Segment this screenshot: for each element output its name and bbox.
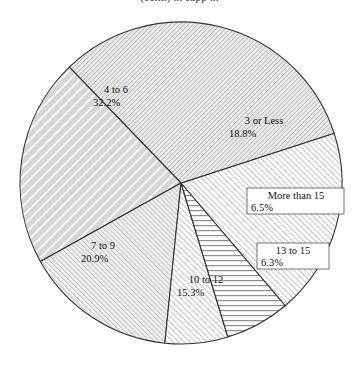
pie-label-4-to-6-name: 4 to 6 [104,84,128,95]
pie-chart-svg: 3 or Less 18.8% 4 to 6 32.2% 7 to 9 20.9… [0,0,359,369]
pie-label-13-to-15: 13 to 15 6.3% [257,243,329,269]
pie-label-more-than-15-value: 6.5% [251,202,273,213]
pie-label-more-than-15-name: More than 15 [268,190,325,201]
pie-label-13-to-15-name: 13 to 15 [276,245,310,256]
pie-label-3-or-less-value: 18.8% [229,128,256,139]
pie-label-13-to-15-value: 6.3% [261,257,283,268]
pie-label-10-to-12-value: 15.3% [177,287,204,298]
pie-chart-figure: (cont.) ... supp ... [0,0,359,369]
pie-label-7-to-9-name: 7 to 9 [91,240,115,251]
pie-label-4-to-6-value: 32.2% [93,97,120,108]
pie-label-10-to-12-name: 10 to 12 [189,274,223,285]
pie-label-3-or-less-name: 3 or Less [245,115,284,126]
pie-label-7-to-9-value: 20.9% [81,253,108,264]
pie-label-more-than-15: More than 15 6.5% [247,188,344,214]
